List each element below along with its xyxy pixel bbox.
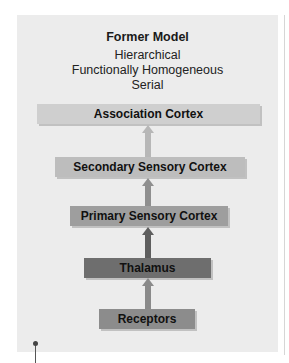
arrow-up-icon: [142, 227, 154, 258]
property-serial: Serial: [17, 78, 278, 93]
box-thalamus: Thalamus: [84, 258, 211, 278]
box-association-cortex: Association Cortex: [37, 104, 260, 124]
callout-dot-icon: [33, 341, 38, 346]
box-secondary-sensory-cortex: Secondary Sensory Cortex: [55, 157, 245, 177]
arrow-up-icon: [142, 125, 154, 157]
arrow-up-icon: [142, 178, 154, 206]
box-receptors: Receptors: [99, 309, 195, 329]
divider-line: [284, 15, 285, 355]
box-primary-sensory-cortex: Primary Sensory Cortex: [70, 206, 228, 226]
diagram-title: Former Model: [17, 30, 278, 44]
arrow-up-icon: [142, 278, 154, 309]
property-functionally-homogeneous: Functionally Homogeneous: [17, 63, 278, 78]
callout-line: [35, 343, 36, 363]
property-hierarchical: Hierarchical: [17, 48, 278, 63]
